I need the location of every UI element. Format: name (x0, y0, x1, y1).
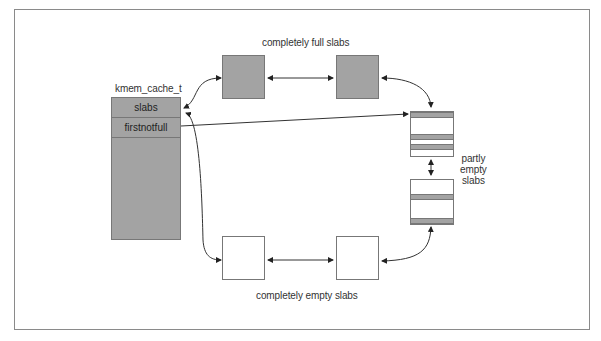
cache-field-firstnotfull: firstnotfull (112, 118, 180, 138)
partial-slabs-label: partly empty slabs (460, 153, 487, 186)
cache-field-slabs: slabs (112, 98, 180, 118)
empty-slab (336, 236, 379, 280)
empty-slab (222, 236, 265, 280)
partial-slab (410, 179, 454, 225)
full-slabs-label: completely full slabs (262, 37, 349, 48)
full-slab (336, 55, 379, 99)
empty-slabs-label: completely empty slabs (256, 290, 358, 301)
full-slab (222, 55, 265, 99)
firstnotfull-arrow (181, 114, 408, 126)
cache-title: kmem_cache_t (115, 83, 182, 94)
kmem-cache-struct: slabs firstnotfull (111, 97, 181, 240)
partial-slab (410, 111, 454, 157)
empty-to-partial-arrow (382, 227, 431, 261)
full-to-partial-arrow (382, 78, 431, 107)
slabs-to-full-arrow (184, 78, 221, 108)
slabs-to-empty-arrow (186, 113, 221, 260)
